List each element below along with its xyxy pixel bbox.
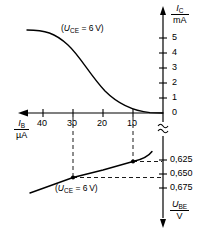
ic-tick-label-1: 1 — [172, 93, 177, 102]
operating-point-marker-30uA — [71, 175, 75, 179]
ic-tick-label-0: 0 — [172, 108, 177, 117]
ib-axis-unit: µA — [14, 130, 29, 140]
ib-tick-label-40: 40 — [37, 119, 47, 128]
ic-characteristic-curve — [27, 30, 163, 113]
lower-curve-condition-label: (UCE = 6 V) — [55, 184, 98, 193]
ic-axis-unit: mA — [171, 15, 189, 25]
ube-axis-unit: V — [170, 211, 189, 221]
ube-tick-label-0625: 0,625 — [170, 155, 193, 164]
ib-axis-arrowhead — [18, 110, 28, 117]
ib-tick-label-20: 20 — [97, 119, 107, 128]
ube-tick-label-0650: 0,650 — [170, 169, 193, 178]
ube-axis-title: UBE V — [170, 200, 189, 221]
upper-curve-condition-label: (UCE = 6 V) — [61, 24, 104, 33]
guide-lines — [73, 117, 162, 178]
ic-axis-symbol: IC — [171, 4, 189, 15]
ube-axis-symbol: UBE — [170, 200, 189, 211]
ib-tick-label-30: 30 — [67, 119, 77, 128]
ib-tick-label-10: 10 — [127, 119, 137, 128]
ic-tick-label-4: 4 — [172, 48, 177, 57]
transistor-characteristic-figure: IC mA 5 4 3 2 1 0 IB µA 40 30 20 10 0,62… — [0, 0, 201, 235]
ube-tick-label-0675: 0,675 — [170, 183, 193, 192]
ic-axis-arrowhead — [160, 6, 166, 15]
axis-break-icon — [158, 124, 168, 133]
ic-axis-title: IC mA — [171, 4, 189, 25]
vertical-axis-group — [160, 6, 166, 228]
ube-axis-arrowhead — [160, 219, 166, 228]
ib-axis-title: IB µA — [14, 119, 29, 140]
ic-tick-label-5: 5 — [172, 33, 177, 42]
ib-axis-symbol: IB — [14, 119, 29, 130]
ic-tick-label-2: 2 — [172, 78, 177, 87]
operating-point-marker-10uA — [131, 159, 135, 163]
ic-tick-label-3: 3 — [172, 63, 177, 72]
